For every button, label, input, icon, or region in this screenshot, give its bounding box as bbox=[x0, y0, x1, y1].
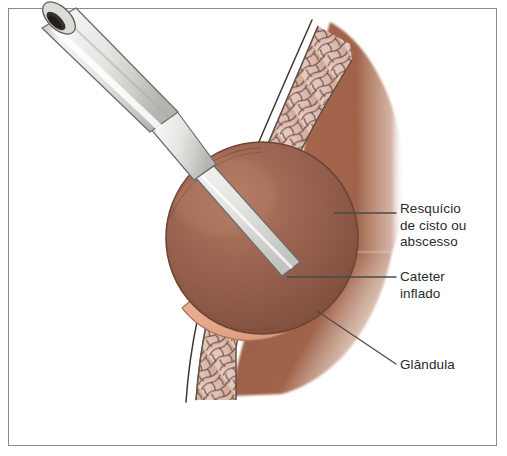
catheter-tube bbox=[37, 0, 178, 132]
illustration-stage: Resquício de cisto ou abscesso Cateter i… bbox=[0, 0, 507, 456]
label-inflated-catheter: Cateter inflado bbox=[400, 269, 445, 302]
label-gland: Glândula bbox=[400, 357, 455, 374]
label-cyst-remnant: Resquício de cisto ou abscesso bbox=[400, 201, 466, 251]
